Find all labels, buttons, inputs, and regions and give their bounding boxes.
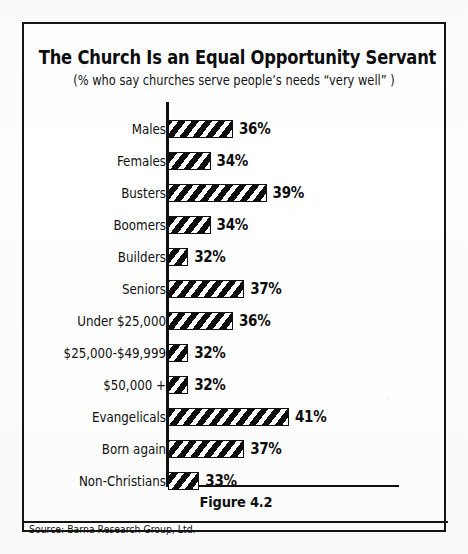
bar-row: Born again37% <box>24 436 448 462</box>
bar <box>168 184 267 202</box>
category-label: Born again <box>102 442 166 457</box>
bar-value-label: 34% <box>217 152 248 170</box>
bar <box>168 216 211 234</box>
bar <box>168 280 244 298</box>
category-label: Seniors <box>122 282 166 297</box>
bar <box>168 376 188 394</box>
category-label: Boomers <box>113 218 166 233</box>
bar <box>168 344 188 362</box>
bar-row: Builders32% <box>24 244 448 270</box>
bar-row: Boomers34% <box>24 212 448 238</box>
bar <box>168 472 199 490</box>
bar-value-label: 32% <box>194 344 225 362</box>
bar-value-label: 36% <box>239 120 270 138</box>
bar-row: $50,000 +32% <box>24 372 448 398</box>
bar-row: Females34% <box>24 148 448 174</box>
bar-value-label: 39% <box>273 184 304 202</box>
category-label: Busters <box>121 186 166 201</box>
bar-row: $25,000-$49,99932% <box>24 340 448 366</box>
bar-value-label: 37% <box>250 440 281 458</box>
bar-value-label: 36% <box>239 312 270 330</box>
bar-row: Non-Christians33% <box>24 468 448 494</box>
figure-page: The Church Is an Equal Opportunity Serva… <box>0 0 468 554</box>
category-label: $25,000-$49,999 <box>64 346 166 361</box>
bar <box>168 408 289 426</box>
bar-value-label: 37% <box>250 280 281 298</box>
bar-row: Busters39% <box>24 180 448 206</box>
bar-row: Evangelicals41% <box>24 404 448 430</box>
chart-subtitle: (% who say churches serve people’s needs… <box>35 73 434 88</box>
category-label: Under $25,000 <box>77 314 166 329</box>
category-label: Males <box>132 122 166 137</box>
category-label: Females <box>117 154 166 169</box>
bar-value-label: 41% <box>295 408 326 426</box>
bar-row: Under $25,00036% <box>24 308 448 334</box>
category-label: Non-Christians <box>79 474 166 489</box>
bar-value-label: 32% <box>194 248 225 266</box>
figure-frame: The Church Is an Equal Opportunity Serva… <box>22 22 446 532</box>
bar <box>168 312 233 330</box>
bar-row: Seniors37% <box>24 276 448 302</box>
bar-row: Males36% <box>24 116 448 142</box>
bar-value-label: 32% <box>194 376 225 394</box>
bar-value-label: 34% <box>217 216 248 234</box>
chart-title: The Church Is an Equal Opportunity Serva… <box>39 46 430 69</box>
bar-value-label: 33% <box>205 472 236 490</box>
bar <box>168 152 211 170</box>
bar <box>168 440 244 458</box>
bar <box>168 248 188 266</box>
category-label: Builders <box>118 250 166 265</box>
source-note: Source: Barna Research Group, Ltd. <box>29 523 196 535</box>
bar <box>168 120 233 138</box>
category-label: Evangelicals <box>92 410 166 425</box>
bar-chart-plot: Males36%Females34%Busters39%Boomers34%Bu… <box>24 102 448 487</box>
category-label: $50,000 + <box>103 378 166 393</box>
figure-caption: Figure 4.2 <box>24 494 448 510</box>
